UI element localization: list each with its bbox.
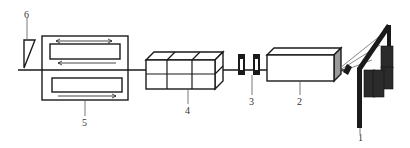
label-6: 6 [24, 10, 29, 20]
process-diagram [0, 0, 410, 148]
creel [340, 24, 393, 134]
segmented-die [146, 52, 223, 104]
guide-plates [238, 54, 260, 95]
label-3: 3 [249, 97, 254, 107]
label-4: 4 [185, 106, 190, 116]
cutter [24, 18, 35, 68]
label-2: 2 [297, 97, 302, 107]
label-5: 5 [82, 118, 87, 128]
label-1: 1 [358, 133, 363, 143]
puller [42, 36, 128, 116]
preforming-box [267, 48, 341, 95]
